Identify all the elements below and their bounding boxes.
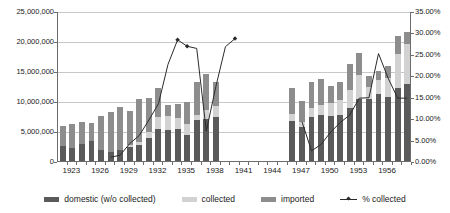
x-axis-tick-mark bbox=[287, 162, 288, 165]
x-axis-tick-mark bbox=[210, 162, 211, 165]
x-axis-tick-mark bbox=[201, 162, 202, 165]
legend-label: imported bbox=[281, 194, 314, 204]
y2-axis-tick-label: 10.00% bbox=[415, 115, 450, 123]
square-swatch-icon bbox=[182, 197, 197, 202]
y2-axis-tick-label: 35.00% bbox=[415, 8, 450, 16]
x-axis-tick-mark bbox=[363, 162, 364, 165]
x-axis-tick-label: 1944 bbox=[257, 166, 287, 176]
x-axis-tick-mark bbox=[373, 162, 374, 165]
x-axis-tick-label: 1947 bbox=[286, 166, 316, 176]
y-axis-tick-label: 10,000,000 bbox=[0, 98, 54, 106]
line-marker-icon bbox=[340, 196, 357, 203]
legend-label: % collected bbox=[362, 194, 405, 204]
y-axis-tick-label: 5,000,000 bbox=[0, 128, 54, 136]
legend: domestic (w/o collected)collectedimporte… bbox=[0, 190, 450, 208]
x-axis-tick-mark bbox=[392, 162, 393, 165]
x-axis-tick-mark bbox=[267, 162, 268, 165]
x-axis-tick-mark bbox=[248, 162, 249, 165]
y-axis-tick-label: 20,000,000 bbox=[0, 38, 54, 46]
x-axis-tick-label: 1923 bbox=[56, 166, 86, 176]
y-axis-tick-mark bbox=[54, 162, 57, 163]
x-axis-tick-mark bbox=[172, 162, 173, 165]
y-axis-tick-label: 25,000,000 bbox=[0, 8, 54, 16]
x-axis-tick-mark bbox=[191, 162, 192, 165]
chart-container: 05,000,00010,000,00015,000,00020,000,000… bbox=[0, 0, 450, 213]
x-axis-tick-mark bbox=[315, 162, 316, 165]
legend-item[interactable]: domestic (w/o collected) bbox=[44, 194, 155, 204]
x-axis-tick-mark bbox=[411, 162, 412, 165]
x-axis-tick-label: 1929 bbox=[114, 166, 144, 176]
legend-label: collected bbox=[202, 194, 236, 204]
x-axis-tick-label: 1953 bbox=[343, 166, 373, 176]
x-axis-tick-mark bbox=[258, 162, 259, 165]
x-axis-tick-mark bbox=[95, 162, 96, 165]
y2-axis-tick-label: 15.00% bbox=[415, 94, 450, 102]
y2-axis-tick-label: 25.00% bbox=[415, 51, 450, 59]
y2-axis-tick-label: 30.00% bbox=[415, 29, 450, 37]
x-axis-tick-mark bbox=[229, 162, 230, 165]
x-axis-tick-mark bbox=[143, 162, 144, 165]
line-path bbox=[111, 39, 235, 158]
y2-axis-tick-label: 0.00% bbox=[415, 158, 450, 166]
x-axis-tick-mark bbox=[67, 162, 68, 165]
legend-label: domestic (w/o collected) bbox=[64, 194, 155, 204]
percent-collected-line bbox=[58, 12, 412, 162]
x-axis-tick-mark bbox=[124, 162, 125, 165]
y-axis-tick-label: 0 bbox=[0, 158, 54, 166]
x-axis-tick-mark bbox=[382, 162, 383, 165]
x-axis-tick-mark bbox=[277, 162, 278, 165]
x-axis-tick-mark bbox=[134, 162, 135, 165]
x-axis-tick-mark bbox=[181, 162, 182, 165]
x-axis-tick-label: 1950 bbox=[315, 166, 345, 176]
x-axis-tick-mark bbox=[114, 162, 115, 165]
x-axis-tick-mark bbox=[296, 162, 297, 165]
y2-axis-tick-label: 5.00% bbox=[415, 137, 450, 145]
square-swatch-icon bbox=[44, 197, 59, 202]
plot-area bbox=[57, 12, 411, 162]
x-axis-tick-mark bbox=[86, 162, 87, 165]
legend-item[interactable]: imported bbox=[261, 194, 314, 204]
x-axis-tick-mark bbox=[344, 162, 345, 165]
y2-axis-tick-label: 20.00% bbox=[415, 72, 450, 80]
x-axis-tick-label: 1941 bbox=[229, 166, 259, 176]
x-axis-tick-label: 1956 bbox=[372, 166, 402, 176]
y-axis-tick-label: 15,000,000 bbox=[0, 68, 54, 76]
x-axis-tick-mark bbox=[334, 162, 335, 165]
x-axis-tick-mark bbox=[105, 162, 106, 165]
x-axis-tick-mark bbox=[162, 162, 163, 165]
x-axis-tick-mark bbox=[153, 162, 154, 165]
legend-item[interactable]: collected bbox=[182, 194, 236, 204]
legend-item[interactable]: % collected bbox=[340, 194, 405, 204]
x-axis-tick-mark bbox=[401, 162, 402, 165]
x-axis-tick-label: 1932 bbox=[142, 166, 172, 176]
x-axis-tick-mark bbox=[76, 162, 77, 165]
square-swatch-icon bbox=[261, 197, 276, 202]
x-axis-tick-mark bbox=[325, 162, 326, 165]
line-path bbox=[302, 54, 407, 151]
x-axis-tick-label: 1926 bbox=[85, 166, 115, 176]
x-axis-tick-mark bbox=[239, 162, 240, 165]
x-axis-tick-mark bbox=[354, 162, 355, 165]
x-axis-tick-mark bbox=[220, 162, 221, 165]
x-axis-tick-label: 1935 bbox=[171, 166, 201, 176]
x-axis-tick-mark bbox=[306, 162, 307, 165]
x-axis-tick-label: 1938 bbox=[200, 166, 230, 176]
